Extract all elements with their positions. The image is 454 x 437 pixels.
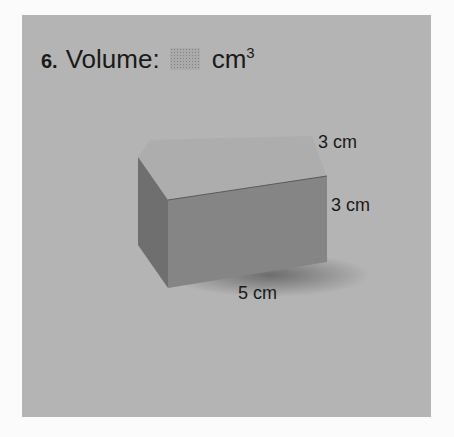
rectangular-prism-figure [0,0,454,437]
depth-label: 3 cm [318,132,357,153]
length-label: 5 cm [238,283,277,304]
height-label: 3 cm [331,195,370,216]
